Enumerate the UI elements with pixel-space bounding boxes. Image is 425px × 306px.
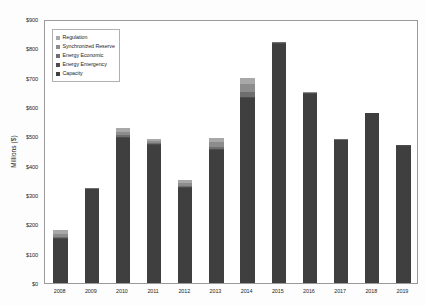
x-tick-label: 2008 [44, 288, 75, 294]
x-tick-label: 2012 [169, 288, 200, 294]
bar-2016 [303, 92, 317, 283]
y-tick-label: $300 [12, 193, 38, 199]
bar-2011 [147, 139, 161, 283]
bar-2013 [209, 138, 223, 283]
y-tick-label: $0 [12, 281, 38, 287]
x-tick-label: 2015 [262, 288, 293, 294]
bar-segment-capacity [334, 140, 348, 283]
y-tick-label: $700 [12, 76, 38, 82]
x-tick-label: 2017 [325, 288, 356, 294]
legend-item: Energy Emergency [56, 60, 115, 69]
legend-item: Energy Economic [56, 51, 115, 60]
legend-swatch-icon [56, 63, 60, 67]
legend-item: Synchronized Reserve [56, 42, 115, 51]
bar-2010 [116, 128, 130, 283]
bar-segment-capacity [396, 146, 410, 283]
chart-container: Millions ($) $0$100$200$300$400$500$600$… [0, 0, 425, 306]
legend-label: Synchronized Reserve [63, 42, 115, 51]
legend-label: Energy Economic [63, 51, 104, 60]
bar-segment-capacity [178, 188, 192, 283]
x-tick-label: 2014 [231, 288, 262, 294]
y-tick-label: $200 [12, 222, 38, 228]
legend-swatch-icon [56, 45, 60, 49]
x-tick-label: 2010 [106, 288, 137, 294]
legend-label: Regulation [63, 33, 88, 42]
y-tick-label: $400 [12, 164, 38, 170]
y-tick-label: $500 [12, 134, 38, 140]
legend-item: Capacity [56, 69, 115, 78]
x-tick-label: 2016 [293, 288, 324, 294]
bar-segment-synchronized-reserve [240, 84, 254, 93]
legend-label: Energy Emergency [63, 60, 107, 69]
bar-2017 [334, 139, 348, 283]
bar-2008 [53, 230, 67, 283]
legend-label: Capacity [63, 69, 83, 78]
y-tick-label: $900 [12, 17, 38, 23]
bar-2018 [365, 113, 379, 283]
legend-swatch-icon [56, 54, 60, 58]
legend-item: Regulation [56, 33, 115, 42]
x-tick-label: 2011 [138, 288, 169, 294]
bar-segment-capacity [53, 239, 67, 283]
bar-2015 [272, 42, 286, 283]
bar-segment-capacity [147, 145, 161, 283]
bar-segment-capacity [365, 113, 379, 283]
chart-legend: RegulationSynchronized ReserveEnergy Eco… [52, 29, 120, 82]
y-tick-label: $100 [12, 252, 38, 258]
y-tick-label: $800 [12, 46, 38, 52]
bar-segment-capacity [303, 94, 317, 283]
bar-segment-capacity [240, 98, 254, 283]
bar-segment-capacity [116, 138, 130, 283]
bar-segment-capacity [272, 44, 286, 283]
legend-swatch-icon [56, 72, 60, 76]
legend-swatch-icon [56, 36, 60, 40]
x-tick-label: 2009 [75, 288, 106, 294]
bar-2019 [396, 145, 410, 283]
bar-segment-capacity [209, 150, 223, 283]
bar-2012 [178, 180, 192, 283]
x-tick-label: 2013 [200, 288, 231, 294]
bar-segment-capacity [85, 189, 99, 283]
x-tick-label: 2018 [356, 288, 387, 294]
bar-2009 [85, 188, 99, 283]
x-tick-label: 2019 [387, 288, 418, 294]
x-axis-tick-labels: 2008200920102011201220132014201520162017… [44, 288, 418, 304]
y-tick-label: $600 [12, 105, 38, 111]
y-axis-tick-labels: $0$100$200$300$400$500$600$700$800$900 [8, 0, 38, 306]
bar-2014 [240, 78, 254, 283]
